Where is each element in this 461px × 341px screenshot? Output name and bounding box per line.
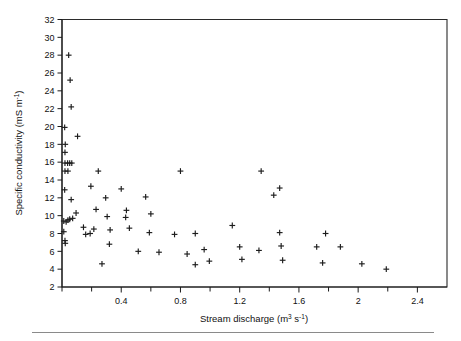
data-point-marker bbox=[68, 197, 74, 203]
data-point-marker bbox=[359, 261, 365, 267]
y-tick-label: 24 bbox=[44, 86, 54, 96]
data-point-marker bbox=[81, 224, 87, 230]
data-point-marker bbox=[229, 223, 235, 229]
y-tick-label: 14 bbox=[44, 175, 54, 185]
x-tick-label: 2 bbox=[356, 296, 361, 306]
data-point-marker bbox=[124, 207, 130, 213]
data-point-marker bbox=[184, 251, 190, 257]
axis-ticks bbox=[58, 20, 418, 293]
data-point-marker bbox=[62, 149, 68, 155]
data-point-marker bbox=[337, 244, 343, 250]
data-point-marker bbox=[104, 214, 110, 220]
data-point-marker bbox=[95, 168, 101, 174]
data-point-marker bbox=[88, 183, 94, 189]
y-tick-label: 6 bbox=[49, 247, 54, 257]
data-point-marker bbox=[271, 192, 277, 198]
data-point-marker bbox=[192, 262, 198, 268]
data-point-marker bbox=[239, 256, 245, 262]
y-tick-label: 26 bbox=[44, 68, 54, 78]
y-tick-label: 2 bbox=[49, 282, 54, 292]
data-point-marker bbox=[126, 225, 132, 231]
y-axis-label: Specific conductivity (mS m-1) bbox=[13, 90, 25, 215]
data-point-marker bbox=[135, 248, 141, 254]
x-tick-label: 1.2 bbox=[233, 296, 246, 306]
data-point-marker bbox=[143, 194, 149, 200]
y-tick-label: 28 bbox=[44, 50, 54, 60]
data-markers bbox=[61, 52, 389, 272]
data-point-marker bbox=[278, 243, 284, 249]
data-point-marker bbox=[62, 187, 68, 193]
y-tick-label: 22 bbox=[44, 104, 54, 114]
y-tick-label: 12 bbox=[44, 193, 54, 203]
data-point-marker bbox=[277, 230, 283, 236]
y-tick-label: 32 bbox=[44, 15, 54, 25]
data-point-marker bbox=[65, 168, 71, 174]
data-point-marker bbox=[75, 133, 81, 139]
data-point-marker bbox=[106, 241, 112, 247]
axis-tick-labels: 24681012141618202224262830320.40.81.21.6… bbox=[44, 15, 423, 306]
data-point-marker bbox=[62, 240, 68, 246]
figure-container: 24681012141618202224262830320.40.81.21.6… bbox=[0, 0, 461, 341]
plot-frame bbox=[62, 20, 447, 288]
data-point-marker bbox=[73, 210, 79, 216]
data-point-marker bbox=[258, 168, 264, 174]
y-tick-label: 20 bbox=[44, 122, 54, 132]
data-point-marker bbox=[99, 261, 105, 267]
data-point-marker bbox=[201, 247, 207, 253]
data-point-marker bbox=[192, 231, 198, 237]
data-point-marker bbox=[206, 258, 212, 264]
svg-text:Specific conductivity (mS m-1: Specific conductivity (mS m-1) bbox=[13, 90, 25, 215]
data-point-marker bbox=[178, 168, 184, 174]
data-point-marker bbox=[68, 104, 74, 110]
data-point-marker bbox=[107, 227, 113, 233]
data-point-marker bbox=[280, 257, 286, 263]
x-tick-label: 0.4 bbox=[115, 296, 128, 306]
data-point-marker bbox=[172, 231, 178, 237]
y-tick-label: 8 bbox=[49, 229, 54, 239]
data-point-marker bbox=[118, 186, 124, 192]
data-point-marker bbox=[156, 249, 162, 255]
data-point-marker bbox=[93, 207, 99, 213]
data-point-marker bbox=[148, 211, 154, 217]
y-tick-label: 10 bbox=[44, 211, 54, 221]
data-point-marker bbox=[66, 52, 72, 58]
data-point-marker bbox=[62, 141, 68, 147]
y-tick-label: 4 bbox=[49, 264, 54, 274]
y-tick-label: 30 bbox=[44, 33, 54, 43]
data-point-marker bbox=[91, 226, 97, 232]
data-point-marker bbox=[87, 231, 93, 237]
data-point-marker bbox=[83, 231, 89, 237]
scatter-plot: 24681012141618202224262830320.40.81.21.6… bbox=[0, 0, 461, 341]
data-point-marker bbox=[123, 215, 129, 221]
data-point-marker bbox=[277, 185, 283, 191]
y-tick-label: 16 bbox=[44, 157, 54, 167]
data-point-marker bbox=[256, 248, 262, 254]
data-point-marker bbox=[103, 195, 109, 201]
data-point-marker bbox=[383, 266, 389, 272]
y-tick-label: 18 bbox=[44, 140, 54, 150]
data-point-marker bbox=[320, 260, 326, 266]
data-point-marker bbox=[314, 244, 320, 250]
svg-text:Stream discharge (m3 s-1): Stream discharge (m3 s-1) bbox=[200, 313, 308, 325]
x-tick-label: 1.6 bbox=[293, 296, 306, 306]
data-point-marker bbox=[62, 124, 68, 130]
data-point-marker bbox=[237, 244, 243, 250]
data-point-marker bbox=[146, 230, 152, 236]
data-point-marker bbox=[323, 231, 329, 237]
x-axis-label: Stream discharge (m3 s-1) bbox=[200, 313, 308, 325]
x-tick-label: 0.8 bbox=[174, 296, 187, 306]
data-point-marker bbox=[67, 77, 73, 83]
x-tick-label: 2.4 bbox=[411, 296, 424, 306]
